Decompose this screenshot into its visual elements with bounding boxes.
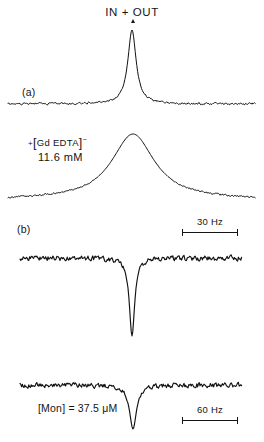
panel-b-label: (b) [17, 223, 30, 235]
gd-edta-label: +[Gd EDTA]− [28, 136, 87, 148]
peak-assignment-label: IN + OUT [0, 6, 264, 18]
scale-bar-30hz: 30 Hz [182, 216, 238, 236]
gd-edta-concentration: 11.6 mM [38, 151, 83, 163]
scale-bar-30hz-tick-right [237, 229, 238, 236]
scale-bar-60hz-tick-left [182, 417, 183, 424]
scale-bar-60hz-rule [182, 417, 238, 424]
monomer-concentration-label: [Mon] = 37.5 μM [38, 402, 117, 414]
scale-bar-60hz-tick-right [237, 417, 238, 424]
scale-bar-60hz-line [182, 420, 238, 421]
peak-pointer-icon [131, 19, 135, 23]
scale-bar-30hz-rule [182, 229, 238, 236]
gd-edta-charge: − [83, 136, 87, 143]
panel-a-label: (a) [22, 86, 35, 98]
scale-bar-60hz-label: 60 Hz [182, 404, 238, 415]
scale-bar-30hz-label: 30 Hz [182, 216, 238, 227]
trace-b-sharp [20, 255, 242, 336]
gd-edta-text: Gd EDTA [37, 137, 79, 148]
scale-bar-30hz-tick-left [182, 229, 183, 236]
trace-a-sharp [8, 30, 255, 105]
scale-bar-30hz-line [182, 232, 238, 233]
scale-bar-60hz: 60 Hz [182, 404, 238, 424]
nmr-figure: IN + OUT (a) +[Gd EDTA]− 11.6 mM (b) 30 … [0, 0, 264, 442]
